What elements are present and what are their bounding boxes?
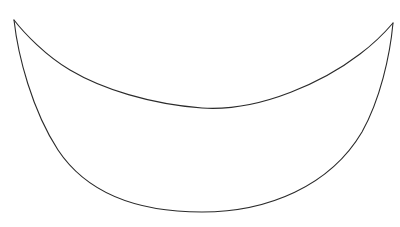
drawing-canvas <box>0 0 400 227</box>
background-rect <box>0 0 400 227</box>
crescent-drawing <box>0 0 400 227</box>
